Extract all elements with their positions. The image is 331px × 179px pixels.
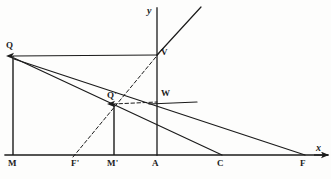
geometry-figure: Q V Q' W M F' M' A C F x y [0, 0, 331, 179]
segment-QC [14, 58, 222, 155]
construction-lines-group [13, 7, 305, 157]
point-label-Qp: Q' [107, 91, 117, 100]
segment-QV [13, 55, 157, 56]
point-label-A: A [152, 159, 159, 168]
dashed-FpV [73, 46, 165, 157]
point-label-W: W [161, 89, 170, 98]
x-axis-label: x [316, 143, 321, 153]
axes-group [5, 8, 328, 155]
point-label-M: M [8, 159, 17, 168]
point-label-F: F [300, 159, 306, 168]
y-axis-label: y [147, 6, 152, 16]
point-label-C: C [217, 159, 224, 168]
segment-QF [14, 59, 305, 155]
point-label-Mp: M' [107, 159, 118, 168]
vector-arrows-group [13, 56, 114, 155]
point-label-Fp: F' [71, 159, 79, 168]
point-label-Q: Q [6, 41, 13, 50]
point-label-V: V [161, 48, 168, 57]
